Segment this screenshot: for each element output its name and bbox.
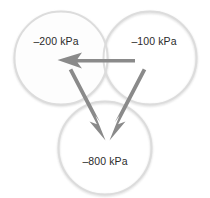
water-potential-diagram: –200 kPa –100 kPa –800 kPa xyxy=(0,0,210,198)
right-cell-circle xyxy=(104,12,197,105)
left-cell-circle xyxy=(15,12,108,105)
bottom-cell-label: –800 kPa xyxy=(82,155,127,167)
bottom-cell-circle xyxy=(59,102,152,195)
diagram-canvas: –200 kPa –100 kPa –800 kPa xyxy=(0,0,210,198)
right-cell-label: –100 kPa xyxy=(131,35,176,47)
left-cell-label: –200 kPa xyxy=(33,35,78,47)
